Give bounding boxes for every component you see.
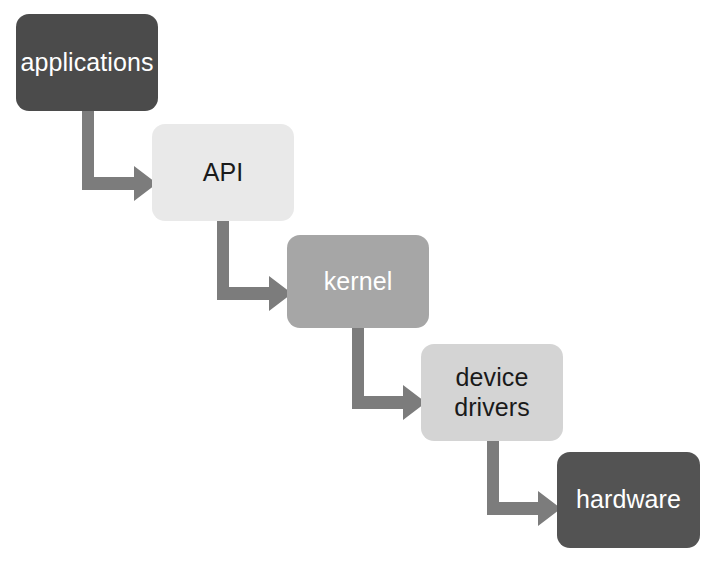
node-hardware-label: hardware	[574, 485, 683, 515]
node-applications[interactable]: applications	[16, 14, 158, 111]
node-api[interactable]: API	[152, 124, 294, 221]
node-kernel[interactable]: kernel	[287, 235, 429, 328]
node-device-drivers[interactable]: device drivers	[421, 344, 563, 441]
node-kernel-label: kernel	[322, 267, 395, 297]
node-device-drivers-label: device drivers	[452, 363, 532, 422]
node-api-label: API	[201, 158, 246, 188]
diagram-canvas: applications API kernel device drivers h…	[0, 0, 710, 567]
elbow-arrow-path	[487, 436, 561, 526]
node-applications-label: applications	[18, 48, 155, 78]
node-hardware[interactable]: hardware	[557, 452, 700, 548]
